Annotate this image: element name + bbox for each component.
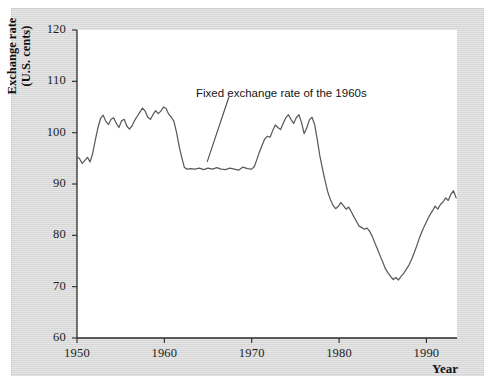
x-tick-label: 1960 bbox=[141, 346, 187, 361]
figure-root: Exchange rate (U.S. cents) Year Fixed ex… bbox=[0, 0, 495, 385]
x-tick-label: 1970 bbox=[229, 346, 275, 361]
y-axis-title: Exchange rate (U.S. cents) bbox=[5, 0, 33, 116]
y-tick-label: 100 bbox=[36, 125, 66, 140]
y-tick-label: 80 bbox=[36, 227, 66, 242]
exchange-rate-line bbox=[77, 107, 456, 280]
y-tick-label: 110 bbox=[36, 73, 66, 88]
annotation-group bbox=[207, 97, 229, 162]
annotation-label: Fixed exchange rate of the 1960s bbox=[196, 87, 367, 99]
x-tick-marks bbox=[77, 338, 426, 343]
axes-group bbox=[72, 30, 457, 343]
y-axis-title-line2: (U.S. cents) bbox=[19, 26, 33, 87]
y-tick-label: 120 bbox=[36, 22, 66, 37]
y-tick-label: 70 bbox=[36, 279, 66, 294]
y-tick-marks bbox=[72, 30, 77, 338]
annotation-leader-line bbox=[207, 97, 229, 162]
x-tick-label: 1990 bbox=[403, 346, 449, 361]
y-tick-label: 60 bbox=[36, 330, 66, 345]
axis-lines bbox=[77, 30, 457, 338]
y-tick-label: 90 bbox=[36, 176, 66, 191]
x-axis-title: Year bbox=[432, 361, 458, 377]
chart-svg bbox=[0, 0, 495, 385]
x-tick-label: 1980 bbox=[316, 346, 362, 361]
x-tick-label: 1950 bbox=[54, 346, 100, 361]
y-axis-title-line1: Exchange rate bbox=[5, 18, 19, 95]
data-series-group bbox=[77, 107, 456, 280]
